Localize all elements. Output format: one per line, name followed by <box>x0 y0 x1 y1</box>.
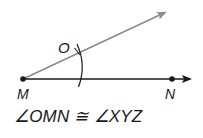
compass-arc <box>77 44 82 87</box>
label-n: N <box>165 86 176 102</box>
label-o: O <box>58 39 70 56</box>
congruence-caption: ∠OMN ≅ ∠XYZ <box>14 106 142 127</box>
point-n <box>169 76 175 82</box>
point-m <box>20 76 26 82</box>
label-m: M <box>17 86 29 102</box>
ray-mo <box>23 13 165 80</box>
